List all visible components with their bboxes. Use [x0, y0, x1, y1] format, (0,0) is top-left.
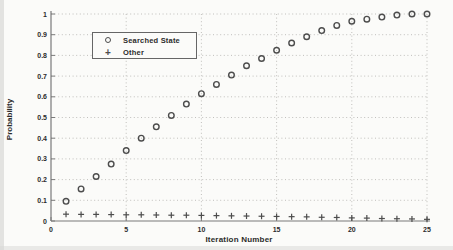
data-point-searched-state — [63, 199, 69, 205]
y-tick-label: 0.6 — [37, 93, 47, 100]
data-point-searched-state — [123, 148, 129, 154]
x-axis-label: Iteration Number — [139, 235, 339, 244]
legend-entry-searched-state: Searched State — [93, 35, 196, 46]
y-tick-label: 0.7 — [37, 73, 47, 80]
x-tick-label: 20 — [348, 226, 356, 233]
data-point-searched-state — [259, 56, 265, 62]
y-tick-label: 0.4 — [37, 135, 47, 142]
legend-entry-other: + Other — [93, 47, 196, 58]
data-point-searched-state — [153, 124, 159, 130]
data-point-searched-state — [214, 82, 220, 88]
legend: Searched State + Other — [92, 32, 197, 59]
legend-label: Other — [123, 48, 144, 57]
circle-marker-icon — [93, 37, 123, 43]
plus-marker-icon: + — [93, 50, 123, 56]
data-point-searched-state — [184, 101, 190, 107]
y-tick-label: 0.9 — [37, 31, 47, 38]
y-axis-label: Probability — [5, 80, 14, 160]
data-point-searched-state — [78, 186, 84, 192]
y-tick-label: 0.8 — [37, 52, 47, 59]
x-tick-label: 25 — [423, 226, 431, 233]
data-point-searched-state — [108, 161, 114, 167]
data-point-searched-state — [93, 174, 99, 180]
x-tick-label: 10 — [198, 226, 206, 233]
chart-canvas: 00.10.20.30.40.50.60.70.80.910510152025 — [0, 0, 453, 250]
data-point-searched-state — [379, 14, 385, 20]
y-tick-label: 0.2 — [37, 176, 47, 183]
y-tick-label: 0.1 — [37, 197, 47, 204]
data-point-searched-state — [364, 16, 370, 22]
data-point-searched-state — [169, 113, 175, 119]
data-point-searched-state — [244, 63, 250, 69]
x-tick-label: 5 — [124, 226, 128, 233]
data-point-searched-state — [229, 72, 235, 78]
y-tick-label: 0.5 — [37, 114, 47, 121]
data-point-searched-state — [394, 12, 400, 18]
data-point-searched-state — [334, 23, 340, 29]
figure: 00.10.20.30.40.50.60.70.80.910510152025 … — [0, 0, 453, 250]
x-tick-label: 15 — [273, 226, 281, 233]
y-tick-label: 0 — [43, 218, 47, 225]
x-tick-label: 0 — [49, 226, 53, 233]
y-tick-label: 1 — [43, 11, 47, 18]
data-point-searched-state — [319, 28, 325, 34]
legend-label: Searched State — [123, 36, 180, 45]
y-tick-label: 0.3 — [37, 155, 47, 162]
data-point-searched-state — [289, 40, 295, 46]
